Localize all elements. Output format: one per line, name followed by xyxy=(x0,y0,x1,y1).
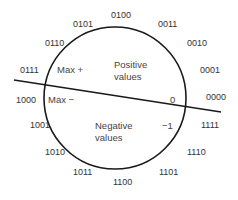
binary-code-label: 1001 xyxy=(30,120,50,130)
binary-code-label: 0110 xyxy=(45,38,64,48)
negative-values-label-line2: values xyxy=(95,132,123,143)
binary-code-label: 1010 xyxy=(45,147,65,157)
binary-code-label: 1011 xyxy=(73,167,92,177)
minus-one-label: −1 xyxy=(162,120,173,131)
binary-code-label: 0000 xyxy=(206,92,226,102)
negative-values-label-line1: Negative xyxy=(95,120,133,131)
binary-code-label: 0001 xyxy=(200,65,220,75)
binary-code-label: 1101 xyxy=(159,167,178,177)
binary-code-label: 0100 xyxy=(111,10,131,20)
binary-code-label: 0010 xyxy=(187,38,207,48)
max-negative-label: Max − xyxy=(48,94,75,105)
positive-values-label-line2: values xyxy=(114,71,142,82)
binary-code-label: 1100 xyxy=(113,177,132,187)
binary-code-label: 0011 xyxy=(158,19,177,29)
twos-complement-number-wheel: 0100001100100001000011111110110111001011… xyxy=(0,0,238,200)
binary-code-label: 1000 xyxy=(16,95,36,105)
binary-code-label: 0101 xyxy=(73,19,93,29)
binary-code-label: 0111 xyxy=(20,65,39,75)
binary-code-label: 1110 xyxy=(187,147,206,157)
max-positive-label: Max + xyxy=(57,64,84,75)
binary-code-label: 1111 xyxy=(201,120,219,130)
positive-values-label-line1: Positive xyxy=(114,59,147,70)
zero-label: 0 xyxy=(170,94,175,105)
